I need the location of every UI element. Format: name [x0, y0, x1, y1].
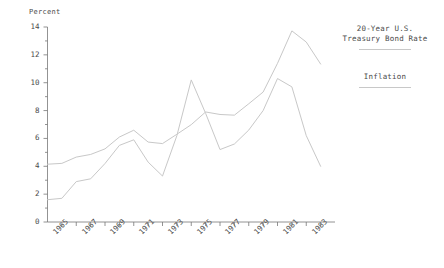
legend-label-bond-rate-line1: 20-Year U.S. [330, 24, 440, 34]
series-line [48, 79, 321, 200]
legend-entry-bond-rate: 20-Year U.S. Treasury Bond Rate [330, 24, 440, 50]
legend-swatch-bond-rate [359, 49, 411, 50]
chart-container: Percent 02468101214 19651967196919711973… [0, 0, 444, 268]
series-line [48, 31, 321, 164]
axis-ticks [44, 27, 321, 226]
legend-label-bond-rate-line2: Treasury Bond Rate [330, 34, 440, 44]
legend-swatch-inflation [359, 87, 411, 88]
legend-entry-inflation: Inflation [330, 72, 440, 88]
series-lines [48, 31, 321, 200]
legend-label-inflation: Inflation [330, 72, 440, 82]
